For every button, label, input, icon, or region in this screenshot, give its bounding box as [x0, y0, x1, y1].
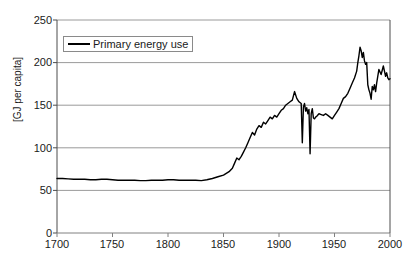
chart-figure: [GJ per capita] 250 200 150 100 50 0 170… — [0, 0, 408, 269]
axis-ticks — [53, 20, 390, 237]
legend-entry-label: Primary energy use — [93, 38, 188, 50]
data-series-line — [57, 47, 390, 180]
legend-line-swatch-icon — [68, 43, 90, 45]
plot-area — [0, 0, 408, 269]
chart-legend: Primary energy use — [63, 36, 193, 52]
